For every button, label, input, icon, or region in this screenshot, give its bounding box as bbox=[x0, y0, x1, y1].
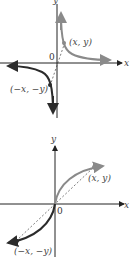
x-axis-label: x bbox=[124, 200, 129, 210]
point-positive bbox=[92, 165, 96, 169]
point-positive-label: (x, y) bbox=[69, 37, 92, 47]
point-positive-label: (x, y) bbox=[88, 173, 111, 183]
curve-positive-half bbox=[55, 166, 103, 204]
figure-hyperbola: x y 0 (x, y) (−x, −y) bbox=[0, 0, 129, 118]
point-negative-label: (−x, −y) bbox=[14, 246, 52, 256]
point-negative bbox=[48, 83, 52, 87]
figure-s-curve: x y 0 (x, y) (−x, −y) bbox=[0, 134, 129, 257]
point-negative bbox=[15, 239, 19, 243]
odd-functions-diagram: x y 0 (x, y) (−x, −y) x y 0 (x, y) (−x, … bbox=[0, 0, 132, 257]
origin-label: 0 bbox=[57, 206, 63, 216]
x-axis-label: x bbox=[124, 58, 129, 68]
point-negative-label: (−x, −y) bbox=[10, 84, 48, 94]
origin-label: 0 bbox=[49, 52, 55, 62]
point-positive bbox=[62, 41, 66, 45]
y-axis-label: y bbox=[50, 134, 57, 144]
curve-negative-half bbox=[8, 204, 55, 243]
y-axis-label: y bbox=[52, 0, 59, 5]
